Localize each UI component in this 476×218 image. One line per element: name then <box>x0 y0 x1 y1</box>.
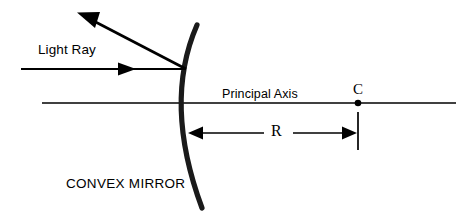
radius-label: R <box>271 123 282 139</box>
reflected-ray-arrowhead-icon <box>77 12 100 28</box>
radius-left-arrowhead-icon <box>188 127 203 140</box>
principal-axis-label: Principal Axis <box>222 88 298 101</box>
reflected-light-ray-shaft <box>86 17 186 69</box>
convex-mirror-diagram: Light Ray Principal Axis CONVEX MIRROR C… <box>0 0 476 218</box>
light-ray-label: Light Ray <box>38 43 96 57</box>
center-of-curvature-point <box>355 100 362 107</box>
center-of-curvature-label: C <box>353 82 363 97</box>
incident-ray-arrowhead-icon <box>118 63 136 76</box>
radius-right-arrowhead-icon <box>342 127 357 140</box>
convex-mirror-label: CONVEX MIRROR <box>66 177 185 191</box>
